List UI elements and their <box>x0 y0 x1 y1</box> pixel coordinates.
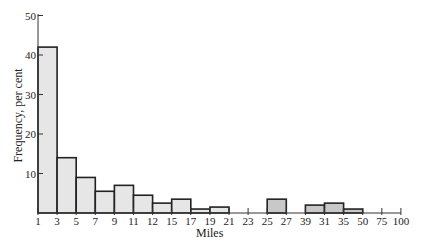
histogram-bar <box>114 185 133 213</box>
svg-text:50: 50 <box>25 10 37 22</box>
histogram-bar <box>95 191 114 213</box>
svg-text:1: 1 <box>35 215 41 227</box>
svg-text:11: 11 <box>128 215 139 227</box>
svg-text:20: 20 <box>25 128 37 140</box>
svg-text:7: 7 <box>93 215 99 227</box>
x-axis-label: Miles <box>196 226 223 241</box>
svg-text:9: 9 <box>112 215 118 227</box>
svg-text:25: 25 <box>262 215 274 227</box>
histogram-bar <box>134 195 153 213</box>
histogram-bar <box>76 177 95 213</box>
svg-text:31: 31 <box>319 215 330 227</box>
svg-text:5: 5 <box>73 215 79 227</box>
svg-text:100: 100 <box>393 215 410 227</box>
svg-text:23: 23 <box>243 215 255 227</box>
histogram-bar <box>344 209 363 213</box>
svg-text:35: 35 <box>338 215 350 227</box>
histogram-bar <box>57 158 76 213</box>
histogram-bar <box>210 207 229 213</box>
histogram-chart: 1020304050135791112151719212325273931355… <box>0 0 424 248</box>
histogram-bar <box>153 203 172 213</box>
svg-text:15: 15 <box>166 215 178 227</box>
svg-text:39: 39 <box>300 215 312 227</box>
svg-text:40: 40 <box>25 49 37 61</box>
svg-text:30: 30 <box>25 89 37 101</box>
svg-text:12: 12 <box>147 215 158 227</box>
histogram-bar <box>38 47 57 213</box>
svg-text:50: 50 <box>357 215 369 227</box>
histogram-bar <box>191 209 210 213</box>
histogram-bar <box>325 203 344 213</box>
svg-text:3: 3 <box>54 215 60 227</box>
svg-text:27: 27 <box>281 215 293 227</box>
y-axis-label: Frequency, per cent <box>11 56 26 176</box>
histogram-bar <box>172 199 191 213</box>
histogram-bar <box>267 199 286 213</box>
histogram-bar <box>305 205 324 213</box>
svg-text:21: 21 <box>224 215 235 227</box>
svg-text:75: 75 <box>376 215 388 227</box>
plot-area: 1020304050135791112151719212325273931355… <box>0 0 424 248</box>
svg-text:10: 10 <box>25 168 37 180</box>
